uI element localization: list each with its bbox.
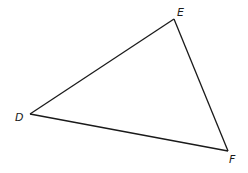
side-fd: [30, 114, 228, 151]
triangle-diagram: D E F: [0, 0, 248, 173]
vertex-label-e: E: [177, 6, 184, 19]
side-ef: [174, 19, 228, 151]
side-de: [30, 19, 174, 114]
vertex-label-d: D: [15, 111, 23, 124]
vertex-label-f: F: [229, 153, 236, 166]
